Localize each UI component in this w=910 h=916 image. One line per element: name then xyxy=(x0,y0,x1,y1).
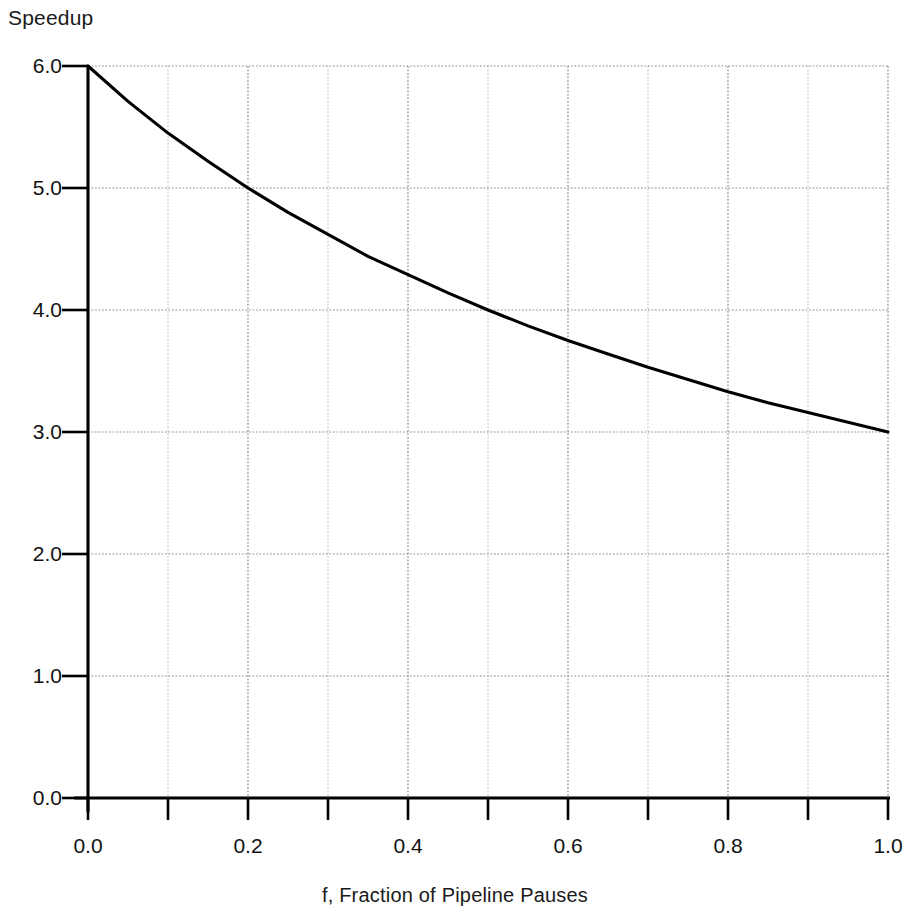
y-tick-label: 2.0 xyxy=(0,542,62,566)
y-tick-label: 3.0 xyxy=(0,420,62,444)
x-tick-label: 1.0 xyxy=(848,834,910,858)
y-tick-label: 0.0 xyxy=(0,786,62,810)
x-tick-label: 0.6 xyxy=(528,834,608,858)
y-tick-label: 6.0 xyxy=(0,54,62,78)
y-tick-label: 4.0 xyxy=(0,298,62,322)
chart-figure: Speedup 0.01.02.03.04.05.06.0 0.00.20.40… xyxy=(0,0,910,916)
axis-lines xyxy=(74,65,890,812)
x-tick-label: 0.2 xyxy=(208,834,288,858)
x-axis-title: f, Fraction of Pipeline Pauses xyxy=(0,884,910,907)
y-tick-label: 1.0 xyxy=(0,664,62,688)
gridlines xyxy=(88,66,888,798)
x-tick-label: 0.8 xyxy=(688,834,768,858)
x-tick-label: 0.0 xyxy=(48,834,128,858)
tick-marks xyxy=(62,66,888,820)
y-tick-label: 5.0 xyxy=(0,176,62,200)
x-tick-label: 0.4 xyxy=(368,834,448,858)
plot-canvas xyxy=(0,0,910,916)
